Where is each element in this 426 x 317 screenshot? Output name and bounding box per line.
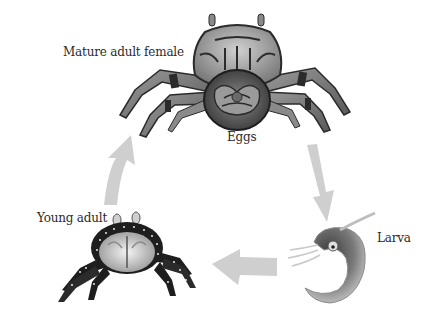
arrow-eggs-to-larva	[307, 144, 334, 222]
mature-crab-illustration	[120, 14, 350, 137]
stage-label-eggs: Eggs	[227, 130, 256, 144]
arrow-larva-to-young	[212, 249, 277, 285]
stage-label-mature-adult-female: Mature adult female	[63, 45, 184, 59]
stage-label-young-adult: Young adult	[37, 211, 107, 225]
young-crab-illustration	[58, 212, 196, 302]
arrow-young-to-mature	[104, 135, 135, 205]
larva-illustration	[288, 213, 375, 303]
stage-label-larva: Larva	[377, 231, 411, 245]
